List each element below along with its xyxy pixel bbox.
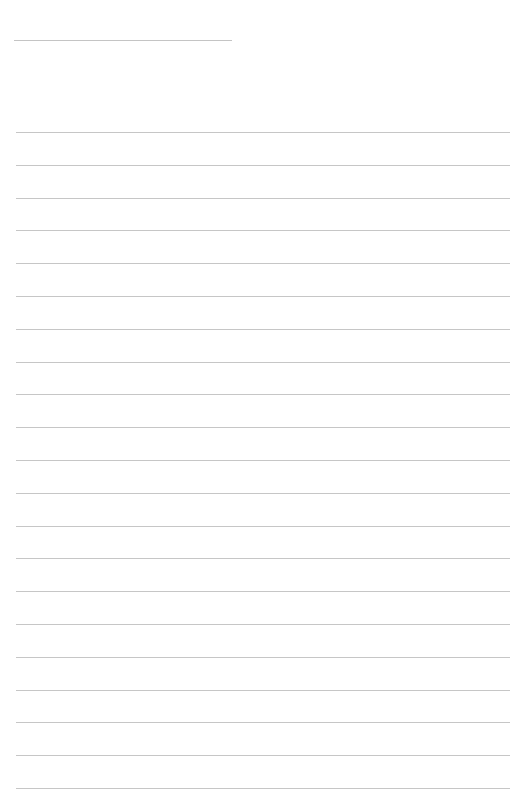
- ruled-line: [16, 230, 510, 231]
- ruled-line: [16, 165, 510, 166]
- ruled-line: [16, 493, 510, 494]
- ruled-line: [16, 591, 510, 592]
- ruled-line: [16, 329, 510, 330]
- ruled-line: [16, 263, 510, 264]
- ruled-line: [16, 558, 510, 559]
- header-write-line: [14, 40, 232, 41]
- ruled-line: [16, 526, 510, 527]
- ruled-line: [16, 362, 510, 363]
- ruled-line: [16, 624, 510, 625]
- ruled-line: [16, 755, 510, 756]
- ruled-line: [16, 394, 510, 395]
- ruled-line: [16, 657, 510, 658]
- ruled-line: [16, 132, 510, 133]
- ruled-line: [16, 198, 510, 199]
- ruled-line: [16, 788, 510, 789]
- ruled-line: [16, 296, 510, 297]
- ruled-line: [16, 722, 510, 723]
- ruled-line: [16, 427, 510, 428]
- ruled-line: [16, 460, 510, 461]
- ruled-line: [16, 690, 510, 691]
